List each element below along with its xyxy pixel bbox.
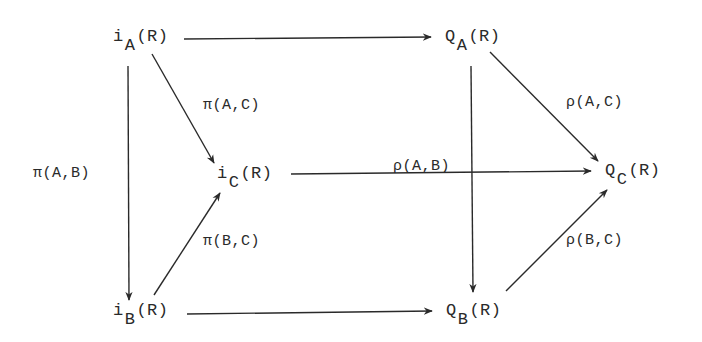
label-pi-AC: π(A,C) (203, 98, 260, 113)
node-iB-base: i (113, 301, 124, 320)
node-iC-sub: C (229, 173, 240, 192)
node-iA-base: i (113, 27, 124, 46)
node-QC-base: Q (605, 161, 616, 180)
arrow-iA-to-QA (184, 37, 431, 39)
label-rho-AB: ρ(A,B) (393, 159, 450, 174)
label-pi-AB: π(A,B) (33, 166, 90, 181)
arrow-iA-to-iB (128, 66, 129, 300)
node-QC: QC(R) (605, 162, 661, 179)
node-QB: QB(R) (446, 302, 502, 319)
node-QC-sub: C (617, 170, 628, 189)
node-iB-sub: B (125, 310, 136, 329)
node-iC: iC(R) (217, 165, 273, 182)
commutative-diagram: iA(R) QA(R) iC(R) QC(R) iB(R) QB(R) π(A,… (0, 0, 702, 342)
node-QB-arg: (R) (469, 301, 501, 320)
label-pi-BC: π(B,C) (203, 234, 260, 249)
node-QA-sub: A (457, 36, 468, 55)
node-QA: QA(R) (445, 28, 501, 45)
label-rho-AC: ρ(A,C) (566, 95, 623, 110)
node-iB-arg: (R) (136, 301, 168, 320)
node-QB-sub: B (458, 310, 469, 329)
label-rho-BC: ρ(B,C) (566, 233, 623, 248)
node-iC-base: i (217, 164, 228, 183)
node-iA: iA(R) (113, 28, 169, 45)
node-iA-arg: (R) (136, 27, 168, 46)
node-QA-base: Q (445, 27, 456, 46)
node-QB-base: Q (446, 301, 457, 320)
arrow-QA-to-QB (471, 66, 473, 292)
node-QC-arg: (R) (628, 161, 660, 180)
node-iA-sub: A (125, 36, 136, 55)
node-QA-arg: (R) (468, 27, 500, 46)
node-iB: iB(R) (113, 302, 169, 319)
arrow-iB-to-QB (187, 311, 432, 314)
node-iC-arg: (R) (240, 164, 272, 183)
diagram-arrows (0, 0, 702, 342)
